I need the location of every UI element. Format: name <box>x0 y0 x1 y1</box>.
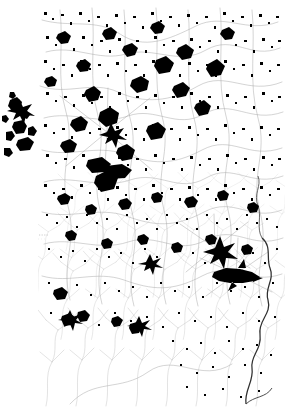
map-figure <box>0 0 285 408</box>
left-margin-mask-upper <box>0 0 38 86</box>
top-margin-mask <box>0 0 285 6</box>
map-background <box>0 0 285 408</box>
map-canvas[interactable] <box>0 0 285 408</box>
left-margin-mask-lower <box>0 158 38 408</box>
